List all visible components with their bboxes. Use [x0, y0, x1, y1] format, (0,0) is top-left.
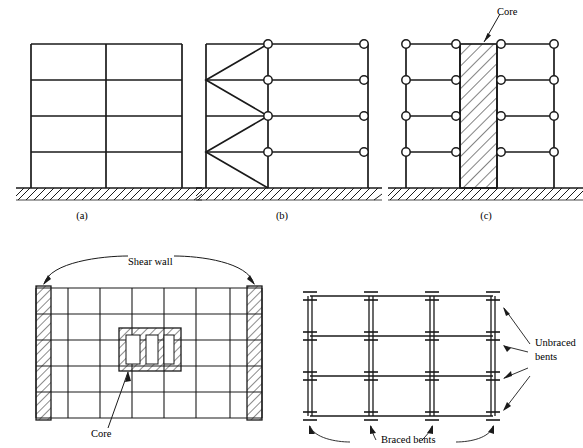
core-plan-leader — [108, 371, 131, 428]
core-label-plan: Core — [91, 428, 111, 439]
core-leader-line-c — [484, 14, 500, 42]
pin-joints-b — [264, 40, 368, 156]
subfigure-b-svg — [196, 36, 382, 208]
shear-wall-right — [247, 286, 262, 420]
plan-shear-wall-core — [24, 256, 284, 448]
subfigure-a-rigid-frame — [16, 36, 202, 208]
unbraced-bents-label-line2: bents — [535, 351, 557, 363]
braced-bents-label: Braced bents — [381, 434, 436, 445]
shear-wall-left — [36, 286, 51, 420]
shear-core-c — [460, 44, 497, 188]
braced-bent-lines — [308, 296, 495, 416]
subfigure-b-braced-bent — [196, 36, 382, 208]
unbraced-bents-label-line1: Unbraced — [535, 337, 576, 349]
core-plan — [119, 328, 181, 371]
caption-b: (b) — [262, 210, 302, 221]
ground-line-a — [16, 188, 202, 200]
subfigure-c-svg — [388, 36, 583, 208]
plan-left-svg — [24, 256, 284, 448]
shear-wall-label: Shear wall — [128, 256, 173, 267]
caption-a: (a) — [62, 210, 102, 221]
subfigure-a-svg — [16, 36, 202, 208]
plan-right-svg — [298, 282, 583, 448]
ground-line-c — [388, 188, 583, 200]
core-label-top: Core — [497, 6, 517, 17]
caption-c: (c) — [466, 210, 506, 221]
frame-a-members — [31, 44, 182, 188]
unbraced-bent-lines — [310, 296, 493, 416]
plan-bents — [298, 282, 583, 448]
ground-line-b — [196, 188, 382, 200]
column-symbols — [303, 292, 500, 420]
subfigure-c-core-braced — [388, 36, 583, 208]
unbraced-bents-leader — [503, 307, 530, 411]
